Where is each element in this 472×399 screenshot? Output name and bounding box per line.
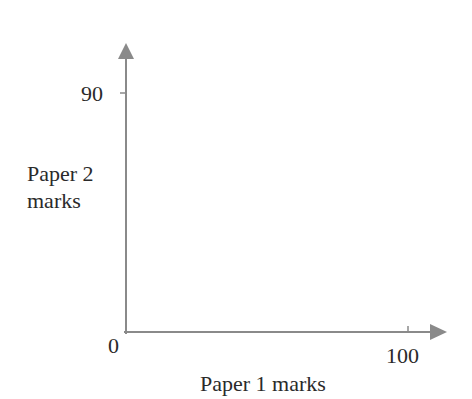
- y-tick-label-90: 90: [81, 82, 103, 106]
- y-axis-label-line2: marks: [27, 189, 81, 213]
- origin-label: 0: [108, 334, 119, 358]
- x-axis-arrow-icon: [430, 324, 447, 340]
- y-axis-label-line1: Paper 2: [27, 162, 94, 186]
- y-axis-arrow-icon: [118, 43, 134, 59]
- x-tick-label-100: 100: [386, 344, 419, 368]
- x-axis-label: Paper 1 marks: [200, 372, 326, 396]
